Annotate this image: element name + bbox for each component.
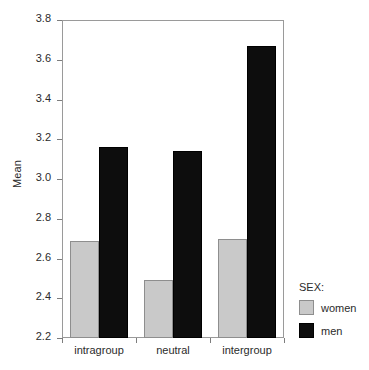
y-axis-tick-mark [57,259,62,260]
y-axis-tick-label: 2.4 [36,290,51,302]
x-axis-category-label: neutral [136,344,210,356]
x-axis-category-label: intergroup [210,344,284,356]
legend-swatch-men [299,323,314,338]
bar-chart: Mean 2.22.42.62.83.03.23.43.63.8 intragr… [0,0,369,370]
y-axis-tick-label: 2.6 [36,251,51,263]
y-axis-tick-label: 3.6 [36,52,51,64]
legend-swatch-women [299,300,314,315]
y-axis-tick-label: 3.0 [36,171,51,183]
y-axis-tick-mark [57,60,62,61]
bar-intergroup-women [218,239,247,338]
plot-area [62,20,284,338]
y-axis-tick-mark [57,100,62,101]
bar-neutral-women [144,280,173,338]
legend-title: SEX: [299,281,369,293]
y-axis-tick-label: 3.4 [36,92,51,104]
bar-intragroup-women [70,241,99,338]
x-axis-tick-mark [284,338,285,343]
y-axis-tick-mark [57,179,62,180]
y-axis-tick-mark [57,139,62,140]
y-axis-tick-label: 3.2 [36,131,51,143]
x-axis-category-label: intragroup [62,344,136,356]
x-axis-tick-mark [62,338,63,343]
x-axis-tick-mark [136,338,137,343]
x-axis-tick-mark [210,338,211,343]
legend-item-men: men [299,323,369,338]
y-axis-tick-mark [57,298,62,299]
bar-neutral-men [173,151,202,338]
y-axis-title: Mean [11,144,23,204]
legend-item-women: women [299,300,369,315]
legend-label-women: women [321,302,356,314]
y-axis-tick-mark [57,219,62,220]
y-axis-tick-label: 2.8 [36,211,51,223]
legend: SEX: womenmen [299,281,369,346]
y-axis-tick-label: 2.2 [36,330,51,342]
bar-intergroup-men [247,46,276,338]
legend-label-men: men [321,325,342,337]
bar-intragroup-men [99,147,128,338]
legend-entries: womenmen [299,300,369,338]
y-axis-tick-label: 3.8 [36,12,51,24]
y-axis-tick-mark [57,20,62,21]
